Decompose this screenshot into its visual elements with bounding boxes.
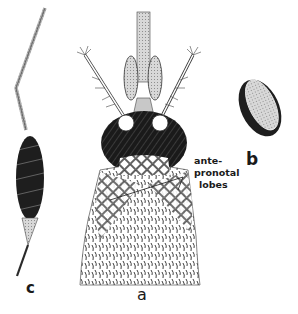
ante-pronotal-lobes-annotation: ante- pronotal lobes — [194, 155, 240, 191]
head-thorax-drawing — [77, 12, 201, 285]
antenna-drawing — [14, 8, 48, 276]
egg-drawing — [230, 73, 290, 143]
annotation-line-2: pronotal — [194, 167, 240, 179]
panel-label-a: a — [137, 285, 147, 304]
panel-label-b: b — [246, 149, 258, 169]
panel-label-c: c — [26, 279, 35, 297]
scientific-illustration: ante- pronotal lobes a b c — [0, 0, 298, 314]
annotation-line-3: lobes — [194, 179, 240, 191]
annotation-line-1: ante- — [194, 155, 240, 167]
